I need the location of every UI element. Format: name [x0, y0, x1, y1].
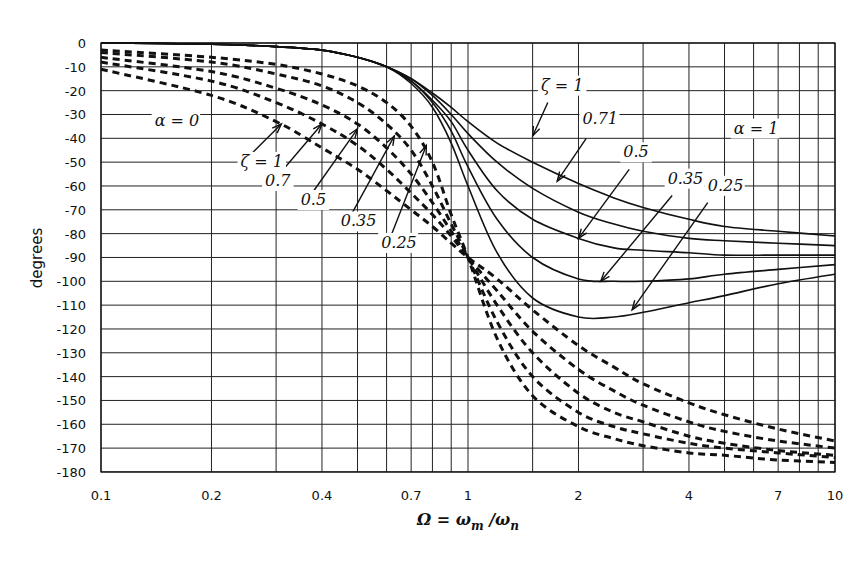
x-tick-label: 10: [827, 488, 844, 503]
y-axis-label: degrees: [28, 228, 46, 289]
arrow-pointer: [281, 124, 322, 172]
annotation-label: α = 1: [734, 119, 779, 138]
arrow-pointer: [533, 103, 548, 136]
annotation-label: 0.35: [341, 211, 377, 230]
x-tick-label: 0.1: [91, 488, 112, 503]
y-tick-label: -40: [65, 131, 86, 146]
arrowhead-icon: [387, 136, 395, 146]
x-axis-label-main: Ω = ω: [416, 510, 471, 529]
annotations: α = 0α = 1ζ = 10.70.50.350.25ζ = 10.710.…: [152, 76, 780, 253]
y-tick-label: -50: [65, 155, 86, 170]
y-tick-label: -10: [65, 60, 86, 75]
arrow-pointer: [557, 138, 586, 181]
annotation-label: 0.35: [668, 169, 704, 188]
y-tick-label: -20: [65, 84, 86, 99]
annotation-label: α = 0: [155, 111, 200, 130]
arrow-pointer: [578, 169, 629, 238]
y-tick-label: -110: [56, 298, 86, 313]
arrow-pointer: [392, 145, 427, 233]
annotation-label: ζ = 1: [241, 152, 283, 171]
y-tick-label: -170: [56, 441, 86, 456]
y-tick-label: -70: [65, 203, 86, 218]
y-tick-label: -60: [65, 179, 86, 194]
x-axis-label-sub-n: n: [510, 519, 519, 533]
x-tick-label: 4: [685, 488, 693, 503]
y-tick-label: -140: [56, 370, 86, 385]
x-axis-label-sub-m: m: [471, 519, 484, 533]
y-tick-label: -100: [56, 274, 86, 289]
y-tick-label: -90: [65, 250, 86, 265]
x-tick-label: 2: [574, 488, 582, 503]
x-axis-label: Ω = ωm /ωn: [416, 510, 519, 533]
annotation-label: 0.25: [381, 233, 417, 252]
y-tick-label: -120: [56, 322, 86, 337]
arrow-pointer: [353, 136, 395, 212]
y-tick-labels: 0-10-20-30-40-50-60-70-80-90-100-110-120…: [56, 36, 86, 480]
x-tick-labels: 0.10.20.40.7124710: [91, 488, 844, 503]
annotation-label: 0.7: [265, 171, 291, 190]
x-tick-label: 7: [774, 488, 782, 503]
y-tick-label: -150: [56, 393, 86, 408]
y-tick-label: -30: [65, 107, 86, 122]
annotation-label: ζ = 1: [541, 76, 583, 95]
phase-chart: 0-10-20-30-40-50-60-70-80-90-100-110-120…: [0, 0, 868, 567]
y-tick-label: 0: [78, 36, 86, 51]
annotation-label: 0.25: [708, 176, 744, 195]
y-tick-label: -160: [56, 417, 86, 432]
arrow-pointer: [250, 124, 281, 155]
annotation-label: 0.71: [582, 109, 618, 128]
y-tick-label: -180: [56, 465, 86, 480]
y-tick-label: -80: [65, 227, 86, 242]
x-tick-label: 0.4: [312, 488, 333, 503]
annotation-label: 0.5: [301, 190, 326, 209]
annotation-label: 0.5: [623, 142, 648, 161]
x-tick-label: 0.2: [201, 488, 222, 503]
x-tick-label: 0.7: [401, 488, 422, 503]
x-axis-label-slash: /ω: [484, 510, 511, 529]
x-tick-label: 1: [464, 488, 472, 503]
y-tick-label: -130: [56, 346, 86, 361]
